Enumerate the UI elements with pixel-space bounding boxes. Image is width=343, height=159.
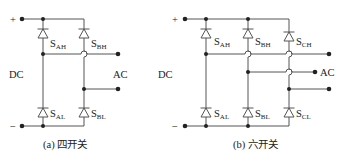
junction	[82, 87, 86, 91]
terminal-plus	[20, 17, 25, 22]
terminal-ac	[313, 70, 318, 75]
inverter-topology-diagram: + − DC AC SAH SBH SAL SBL (a) 四开关	[0, 0, 343, 159]
junction	[246, 124, 250, 128]
minus-label: −	[10, 121, 16, 132]
diode-icon	[38, 29, 49, 38]
terminal-minus	[183, 124, 188, 129]
terminal-ac	[327, 87, 332, 92]
junction	[246, 70, 250, 74]
terminal-ac	[116, 52, 121, 57]
junction	[204, 52, 208, 56]
switch-label-sal: SAL	[50, 108, 65, 121]
junction	[287, 87, 291, 91]
diode-icon	[38, 108, 49, 117]
junction	[41, 52, 45, 56]
diode-icon	[243, 108, 254, 117]
switch-label-sah: SAH	[50, 38, 66, 51]
dc-label: DC	[158, 69, 173, 80]
ac-label: AC	[113, 69, 128, 80]
diode-icon	[284, 108, 295, 117]
caption-b: (b) 六开关	[233, 138, 279, 151]
plus-label: +	[172, 14, 178, 25]
ac-output-a	[206, 51, 329, 54]
plus-label: +	[10, 14, 16, 25]
switch-label-sah: SAH	[214, 36, 230, 49]
diode-icon	[243, 29, 254, 38]
diode-icon	[201, 108, 212, 117]
minus-label: −	[172, 121, 178, 132]
switch-label-sal: SAL	[214, 108, 229, 121]
junction	[204, 17, 208, 21]
switch-label-sbh: SBH	[91, 38, 107, 51]
switch-label-sbh: SBH	[255, 36, 271, 49]
diode-icon	[284, 32, 295, 41]
terminal-minus	[20, 124, 25, 129]
caption-a: (a) 四开关	[43, 138, 88, 151]
panel-b-six-switch: + − DC AC SAH SBH SCH SAL SBL SCL (b) 六开…	[158, 14, 335, 151]
switch-label-sbl: SBL	[91, 108, 106, 121]
junction	[204, 124, 208, 128]
switch-label-scl: SCL	[296, 108, 311, 121]
dc-label: DC	[9, 69, 24, 80]
ac-output-a	[43, 51, 118, 54]
terminal-ac	[327, 52, 332, 57]
ac-label: AC	[320, 67, 335, 78]
switch-label-sch: SCH	[296, 36, 312, 49]
diode-icon	[79, 108, 90, 117]
terminal-ac	[116, 87, 121, 92]
junction	[246, 17, 250, 21]
junction	[41, 124, 45, 128]
diode-icon	[79, 29, 90, 38]
junction	[41, 17, 45, 21]
terminal-plus	[183, 17, 188, 22]
panel-a-four-switch: + − DC AC SAH SBH SAL SBL (a) 四开关	[9, 14, 128, 151]
ac-output-b	[248, 69, 315, 72]
diode-icon	[201, 29, 212, 38]
switch-label-sbl: SBL	[255, 108, 270, 121]
